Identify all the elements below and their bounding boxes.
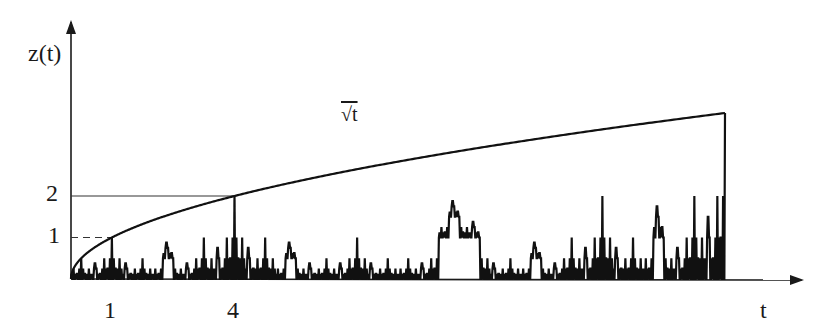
- chart-container: z(t) t √t 1 4 1 2: [0, 0, 830, 329]
- x-tick-4: 4: [227, 298, 239, 322]
- y-tick-1: 1: [48, 223, 60, 247]
- sqrt-curve-label: √t: [341, 103, 358, 125]
- y-tick-2: 2: [46, 181, 58, 205]
- x-tick-1: 1: [104, 298, 116, 322]
- x-axis-label: t: [760, 298, 767, 322]
- y-axis-label: z(t): [28, 41, 61, 65]
- chart-plot: [0, 0, 830, 329]
- curve-label-sqrt: √t: [341, 104, 358, 124]
